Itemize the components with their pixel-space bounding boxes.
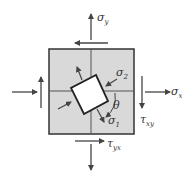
tau-yx-sub: yx [113,144,121,152]
sigma-x-label: σx [171,86,182,100]
sigma-1-sub: 1 [116,121,120,129]
sigma-2-sub: 2 [124,73,128,81]
sigma-y-label: σy [97,12,108,26]
stress-element-diagram [0,0,189,181]
theta-label: θ [113,100,120,111]
sigma-1-label: σ1 [108,115,120,129]
tau-xy-sub: xy [146,120,154,128]
sigma-y-sub: y [105,18,109,26]
sigma-y-symbol: σ [97,11,105,24]
tau-xy-label: τxy [140,114,154,128]
sigma-x-sub: x [179,92,183,100]
tau-yx-label: τyx [107,138,121,152]
sigma-1-symbol: σ [108,114,116,127]
sigma-2-label: σ2 [116,67,128,81]
sigma-x-symbol: σ [171,85,179,98]
sigma-2-symbol: σ [116,66,124,79]
